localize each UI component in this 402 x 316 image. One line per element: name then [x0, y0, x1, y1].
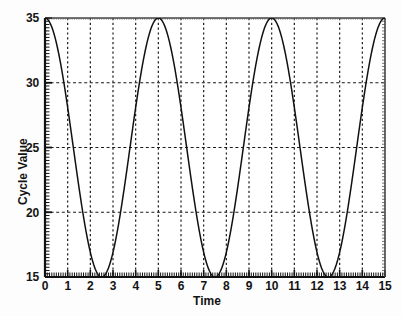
x-tick-label: 8	[214, 279, 238, 293]
x-tick-label: 12	[305, 279, 329, 293]
y-tick-label: 35	[2, 11, 39, 25]
y-tick-label: 20	[2, 206, 39, 220]
x-tick-label: 10	[260, 279, 284, 293]
x-tick-label: 3	[101, 279, 125, 293]
x-tick-label: 13	[328, 279, 352, 293]
y-tick-label: 30	[2, 76, 39, 90]
x-tick-label: 5	[146, 279, 170, 293]
x-tick-label: 14	[350, 279, 374, 293]
x-tick-label: 7	[192, 279, 216, 293]
x-tick-label: 2	[78, 279, 102, 293]
y-axis-title: Cycle Value	[16, 138, 30, 205]
x-tick-label: 1	[56, 279, 80, 293]
x-tick-label: 0	[33, 279, 57, 293]
x-axis-title: Time	[147, 294, 267, 308]
x-tick-label: 11	[282, 279, 306, 293]
chart-plot-svg	[0, 0, 402, 316]
chart-figure: 35 30 25 20 15 0123456789101112131415 Ti…	[0, 0, 402, 316]
x-tick-label: 6	[169, 279, 193, 293]
x-tick-label: 9	[237, 279, 261, 293]
x-tick-label: 4	[124, 279, 148, 293]
x-tick-label: 15	[373, 279, 397, 293]
